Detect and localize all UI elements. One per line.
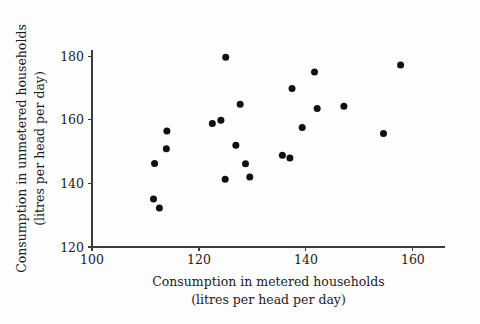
data-point (279, 152, 286, 159)
data-point (151, 160, 158, 167)
data-point (209, 120, 216, 127)
data-point (246, 174, 253, 181)
data-point (380, 130, 387, 137)
data-point (156, 204, 163, 211)
data-point (232, 142, 239, 149)
data-point (222, 176, 229, 183)
data-point (150, 196, 157, 203)
x-tick-label: 120 (187, 252, 211, 267)
data-point (311, 68, 318, 75)
data-point (340, 103, 347, 110)
x-tick-label: 160 (401, 252, 425, 267)
x-tick-label: 100 (80, 252, 104, 267)
data-point (217, 117, 224, 124)
chart-axes (92, 50, 445, 247)
y-tick-label: 140 (60, 176, 84, 191)
data-point (237, 101, 244, 108)
chart-canvas: 120140160180100120140160 Consumption in … (0, 0, 480, 324)
x-axis-title-line1: Consumption in metered households (152, 274, 385, 289)
y-axis-title-line1: Consumption in unmetered households (14, 24, 29, 273)
chart-ticks: 120140160180100120140160 (60, 49, 425, 267)
y-tick-label: 180 (60, 49, 84, 64)
data-point (242, 160, 249, 167)
data-point (314, 105, 321, 112)
x-axis-title-line2: (litres per head per day) (191, 292, 346, 307)
data-point (397, 61, 404, 68)
data-point (286, 155, 293, 162)
x-tick-label: 140 (294, 252, 318, 267)
data-point (163, 145, 170, 152)
data-point (299, 124, 306, 131)
scatter-chart-figure: 120140160180100120140160 Consumption in … (0, 0, 480, 324)
data-point (163, 128, 170, 135)
data-point (222, 54, 229, 61)
data-point (289, 85, 296, 92)
y-axis-title-line2: (litres per head per day) (32, 71, 47, 226)
data-point-series (150, 54, 404, 212)
y-tick-label: 160 (60, 112, 84, 127)
